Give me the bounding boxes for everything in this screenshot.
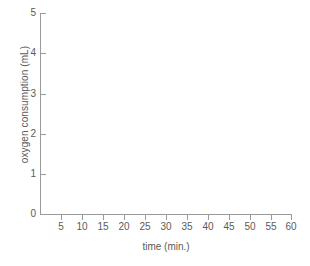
x-tick-label-35: 35: [177, 221, 197, 233]
x-tick-label-30: 30: [156, 221, 176, 233]
x-tick-55: [271, 215, 272, 220]
x-tick-label-45: 45: [219, 221, 239, 233]
x-tick-label-5: 5: [51, 221, 71, 233]
x-tick-45: [229, 215, 230, 220]
x-tick-40: [208, 215, 209, 220]
x-tick-label-50: 50: [240, 221, 260, 233]
y-tick-2: [41, 134, 46, 135]
chart-figure: oxygen consumption (mL) 5 4 3 2 1 0 5 10…: [0, 0, 310, 266]
y-tick-0: [41, 214, 46, 215]
x-tick-label-25: 25: [135, 221, 155, 233]
y-tick-4: [41, 53, 46, 54]
x-tick-label-40: 40: [198, 221, 218, 233]
x-tick-label-55: 55: [261, 221, 281, 233]
y-tick-label-4: 4: [22, 47, 36, 59]
x-tick-20: [124, 215, 125, 220]
x-tick-50: [250, 215, 251, 220]
y-tick-label-0: 0: [22, 208, 36, 220]
y-tick-5: [41, 13, 46, 14]
x-tick-35: [187, 215, 188, 220]
x-tick-label-20: 20: [114, 221, 134, 233]
x-axis-title: time (min.): [40, 240, 292, 254]
x-tick-60: [291, 215, 292, 220]
x-tick-30: [166, 215, 167, 220]
x-tick-label-10: 10: [72, 221, 92, 233]
x-tick-label-15: 15: [93, 221, 113, 233]
x-tick-25: [145, 215, 146, 220]
y-tick-label-1: 1: [22, 168, 36, 180]
y-tick-label-3: 3: [22, 88, 36, 100]
y-tick-3: [41, 94, 46, 95]
clipped-caption: [0, 261, 310, 266]
x-tick-5: [61, 215, 62, 220]
y-tick-label-5: 5: [22, 7, 36, 19]
plot-area: [41, 13, 292, 214]
x-tick-10: [82, 215, 83, 220]
y-tick-1: [41, 174, 46, 175]
y-tick-label-2: 2: [22, 128, 36, 140]
x-tick-15: [103, 215, 104, 220]
x-tick-label-60: 60: [281, 221, 301, 233]
